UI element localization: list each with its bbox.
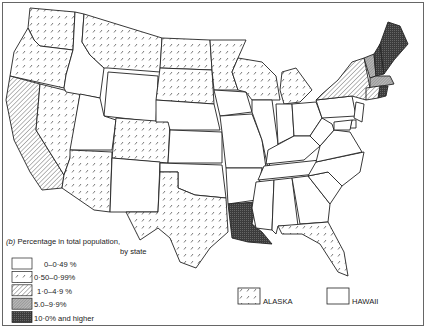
legend-swatch-c2 [12,285,32,296]
legend-swatch-c3 [12,298,32,309]
state-maine [380,22,408,74]
state-iowa [214,90,252,116]
hawaii-inset: HAWAII [327,288,378,306]
hawaii-label: HAWAII [352,297,378,306]
legend-label-c0: 0–0·49 % [44,260,77,269]
state-michigan [280,68,312,104]
legend-title: (b) Percentage in total population, [6,237,120,246]
legend-swatch-c4 [12,312,32,323]
state-florida [278,222,348,276]
panel-label: (b) [6,237,16,246]
legend-swatch-c1 [12,271,32,282]
legend-label-c3: 5.0–9·9% [34,300,67,309]
legend-label-c1: 0·50–0·99% [34,273,76,282]
state-north-dakota [160,38,212,70]
legend-label-c4: 10·0% and higher [34,314,94,323]
state-kansas [168,130,222,163]
state-new-jersey [354,102,364,122]
state-wyoming [104,72,158,122]
us-choropleth-map: (b) Percentage in total population, by s… [0,0,426,328]
state-mississippi [252,180,274,230]
alaska-swatch [238,288,260,304]
state-maryland [334,120,352,130]
legend-title-text: Percentage in total population, [17,237,120,246]
state-arizona [62,150,112,212]
alaska-inset: ALASKA [238,288,293,306]
state-new-mexico [110,158,160,212]
legend-swatch-c0 [12,258,32,269]
legend: (b) Percentage in total population, by s… [6,237,147,323]
alaska-label: ALASKA [263,297,293,306]
legend-subtitle: by state [120,247,147,256]
state-colorado [112,118,170,163]
legend-label-c2: 1·0–4·9 % [37,287,72,296]
state-new-york [316,58,370,100]
state-connecticut [366,86,380,100]
state-south-dakota [156,68,214,104]
hawaii-swatch [327,288,349,304]
